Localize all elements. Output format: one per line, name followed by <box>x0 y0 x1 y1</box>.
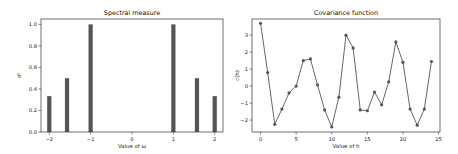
covariance-function-chart: Covariance function0510152025−2−10123Val… <box>234 9 442 149</box>
data-point-marker <box>380 103 383 106</box>
data-point-marker <box>373 90 376 93</box>
y-tick-label: 1.0 <box>29 21 37 27</box>
x-tick-label: 20 <box>400 136 407 142</box>
data-point-marker <box>401 61 404 64</box>
y-tick-label: 2 <box>245 49 248 55</box>
y-tick-label: 0.4 <box>29 86 38 92</box>
chart-title: Spectral measure <box>104 9 160 17</box>
x-tick-label: 15 <box>364 136 371 142</box>
data-point-marker <box>259 22 262 25</box>
data-point-marker <box>416 124 419 127</box>
x-tick-label: −2 <box>45 136 53 142</box>
data-point-marker <box>366 109 369 112</box>
y-tick-label: 0.6 <box>29 64 37 70</box>
data-point-marker <box>302 59 305 62</box>
data-point-marker <box>280 107 283 110</box>
x-tick-label: 10 <box>328 136 335 142</box>
figure: Spectral measure−2−10120.00.20.40.60.81.… <box>0 0 458 154</box>
x-tick-label: −1 <box>87 136 95 142</box>
x-axis-label: Value of h <box>333 143 360 149</box>
x-tick-label: 0 <box>259 136 262 142</box>
data-point-marker <box>316 83 319 86</box>
data-point-marker <box>330 125 333 128</box>
data-point-marker <box>423 107 426 110</box>
x-axis-label: Value of ω <box>118 143 146 149</box>
bar <box>65 78 69 132</box>
data-point-marker <box>408 107 411 110</box>
data-point-marker <box>266 71 269 74</box>
y-tick-label: 1 <box>245 66 248 72</box>
data-point-marker <box>394 40 397 43</box>
x-tick-label: 1 <box>172 136 175 142</box>
data-point-marker <box>430 60 433 63</box>
data-point-marker <box>309 57 312 60</box>
covariance-line <box>261 23 432 127</box>
data-point-marker <box>337 96 340 99</box>
data-point-marker <box>344 34 347 37</box>
y-tick-label: 0.2 <box>29 107 37 113</box>
x-tick-label: 2 <box>213 136 216 142</box>
spectral-measure-chart: Spectral measure−2−10120.00.20.40.60.81.… <box>16 9 223 149</box>
data-point-marker <box>323 108 326 111</box>
y-tick-label: −2 <box>240 117 248 123</box>
y-axis-label: c(h) <box>234 70 240 81</box>
y-tick-label: 0.8 <box>29 43 37 49</box>
bar <box>89 24 93 132</box>
bar <box>213 96 217 132</box>
y-tick-label: 0.0 <box>29 129 37 135</box>
y-tick-label: 3 <box>245 32 248 38</box>
x-tick-label: 0 <box>130 136 133 142</box>
bar <box>195 78 199 132</box>
bar <box>171 24 175 132</box>
data-point-marker <box>287 91 290 94</box>
x-tick-label: 25 <box>435 136 442 142</box>
chart-title: Covariance function <box>314 9 378 17</box>
data-point-marker <box>295 85 298 88</box>
data-point-marker <box>387 80 390 83</box>
x-tick-label: 5 <box>294 136 297 142</box>
bar <box>47 96 51 132</box>
y-tick-label: 0 <box>245 83 248 89</box>
data-point-marker <box>273 123 276 126</box>
y-tick-label: −1 <box>240 100 248 106</box>
data-point-marker <box>359 108 362 111</box>
y-axis-label: σ² <box>16 73 22 79</box>
data-point-marker <box>352 46 355 49</box>
